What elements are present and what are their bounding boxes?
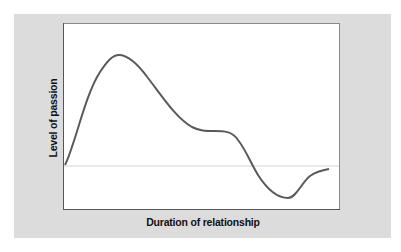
y-axis-label: Level of passion — [47, 78, 59, 157]
chart-svg — [0, 0, 401, 252]
passion-curve — [65, 55, 329, 198]
x-axis-label: Duration of relationship — [146, 216, 260, 228]
